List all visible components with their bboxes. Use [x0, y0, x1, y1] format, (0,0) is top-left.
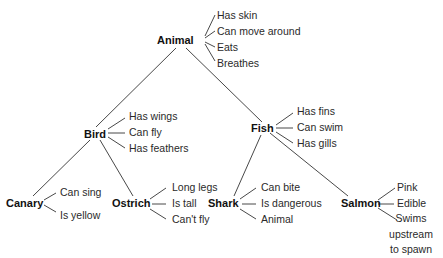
node-fish: Fish: [251, 122, 274, 134]
animal-property: Eats: [217, 41, 238, 53]
edge-canary-yellow: [44, 205, 56, 212]
bird-property: Has wings: [129, 110, 177, 122]
edge-canary-sing: [44, 193, 56, 200]
node-shark: Shark: [208, 197, 239, 209]
ostrich-property: Can't fly: [172, 213, 210, 225]
shark-property: Can bite: [261, 181, 300, 193]
edge-fish-fins: [276, 113, 293, 125]
shark-property: Animal: [261, 213, 293, 225]
canary-property: Is yellow: [60, 209, 100, 221]
ostrich-property: Long legs: [172, 181, 218, 193]
node-bird: Bird: [84, 128, 106, 140]
animal-property: Has skin: [217, 9, 257, 21]
animal-property: Breathes: [217, 57, 259, 69]
edge-fish-gills: [276, 132, 293, 143]
node-animal: Animal: [157, 34, 194, 46]
edge-shark-animal: [240, 209, 256, 219]
edge-bird-wings: [108, 118, 125, 129]
bird-property: Can fly: [129, 126, 162, 138]
edge-bird-feathers: [108, 137, 125, 148]
edge-fish-shark: [234, 135, 261, 196]
edge-ostrich-fly: [150, 209, 166, 219]
edge-animal-has-skin: [205, 15, 215, 36]
fish-property: Has gills: [297, 137, 337, 149]
ostrich-property: Is tall: [172, 197, 197, 209]
fish-property: Has fins: [297, 105, 335, 117]
salmon-property: Edible: [397, 197, 426, 209]
edge-ostrich-legs: [150, 188, 166, 199]
fish-property: Can swim: [297, 121, 343, 133]
bird-property: Has feathers: [129, 142, 189, 154]
shark-property: Is dangerous: [261, 197, 322, 209]
node-salmon: Salmon: [341, 197, 381, 209]
canary-property: Can sing: [60, 186, 101, 198]
node-canary: Canary: [6, 197, 43, 209]
salmon-property: Swims upstream to spawn: [385, 211, 437, 258]
node-ostrich: Ostrich: [112, 197, 151, 209]
edge-shark-bite: [240, 188, 256, 199]
animal-property: Can move around: [217, 25, 300, 37]
salmon-property: Pink: [397, 181, 417, 193]
